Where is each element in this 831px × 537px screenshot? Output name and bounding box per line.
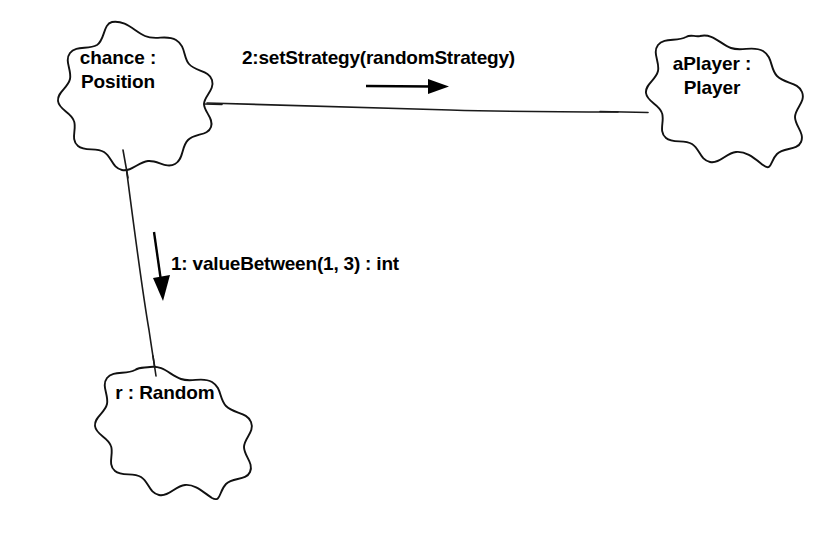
link-chance-aplayer[interactable] <box>207 103 618 112</box>
link-layer <box>126 103 618 374</box>
link-stub-chance-right <box>204 104 222 105</box>
node-aplayer-player-label: aPlayer : Player <box>637 52 787 101</box>
message-1-arrow[interactable] <box>153 232 170 301</box>
node-chance-position-shape[interactable] <box>58 22 213 171</box>
message-1-arrow-shaft <box>154 232 161 281</box>
link-chance-random[interactable] <box>126 166 156 374</box>
uml-collaboration-diagram: chance : Position aPlayer : Player r : R… <box>0 0 831 537</box>
message-2-label: 2:setStrategy(randomStrategy) <box>242 47 515 70</box>
link-attachment-layer <box>123 104 648 376</box>
message-2-arrow[interactable] <box>366 79 449 94</box>
message-2-arrow-shaft <box>366 86 432 87</box>
message-2-arrow-head <box>428 79 449 94</box>
message-1-arrow-head <box>153 275 170 301</box>
node-chance-position-label: chance : Position <box>48 46 188 95</box>
link-stub-aplayer-left <box>600 112 648 113</box>
node-random-label: r : Random <box>90 381 240 405</box>
message-1-label: 1: valueBetween(1, 3) : int <box>171 253 399 276</box>
